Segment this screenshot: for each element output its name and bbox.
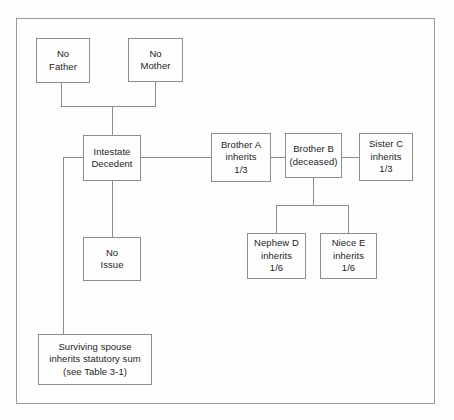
node-intestate-decedent[interactable]: Intestate Decedent [83, 135, 141, 181]
node-spouse-line-3: (see Table 3-1) [63, 366, 127, 379]
connector-decedent-to-issue [112, 180, 113, 238]
node-no-mother-line-2: Mother [141, 60, 171, 73]
node-sister-c[interactable]: Sister C inherits 1/3 [359, 133, 413, 181]
node-no-mother-line-1: No [149, 48, 161, 61]
node-no-issue-line-2: Issue [101, 259, 124, 272]
node-no-mother[interactable]: No Mother [128, 38, 183, 82]
node-brother-b-line-2: (deceased) [289, 156, 337, 169]
connector-brother-a-to-brother-b [270, 157, 285, 158]
node-no-father[interactable]: No Father [36, 38, 90, 83]
node-spouse-line-2: inherits statutory sum [49, 353, 140, 366]
node-brother-b[interactable]: Brother B (deceased) [285, 133, 342, 178]
node-surviving-spouse[interactable]: Surviving spouse inherits statutory sum … [38, 334, 152, 385]
node-brother-a[interactable]: Brother A inherits 1/3 [211, 133, 271, 182]
connector-parents-to-decedent [112, 106, 113, 136]
node-spouse-line-1: Surviving spouse [58, 341, 131, 354]
connector-decedent-spouse-stub [63, 157, 84, 158]
diagram-page: No Father No Mother Intestate Decedent B… [0, 0, 454, 420]
node-decedent-line-1: Intestate [94, 146, 131, 159]
node-brother-a-line-3: 1/3 [234, 164, 247, 177]
connector-spouse-drop [63, 157, 64, 335]
node-nephew-d[interactable]: Nephew D inherits 1/6 [247, 233, 306, 279]
node-no-issue[interactable]: No Issue [83, 237, 141, 281]
node-no-father-line-2: Father [49, 61, 77, 74]
connector-brother-b-to-sister-c [341, 157, 359, 158]
node-nephew-d-line-3: 1/6 [270, 262, 283, 275]
connector-decedent-to-brother-a [140, 157, 211, 158]
node-niece-e-line-2: inherits [333, 250, 364, 263]
node-sister-c-line-3: 1/3 [379, 163, 392, 176]
node-niece-e-line-3: 1/6 [342, 262, 355, 275]
node-nephew-d-line-1: Nephew D [254, 237, 299, 250]
connector-parents-bar [61, 106, 156, 107]
node-no-father-line-1: No [57, 48, 69, 61]
connector-brother-b-stem [313, 177, 314, 205]
node-sister-c-line-1: Sister C [369, 138, 403, 151]
node-decedent-line-2: Decedent [91, 158, 132, 171]
node-no-issue-line-1: No [106, 247, 118, 260]
connector-nephew-stem [276, 205, 277, 233]
node-niece-e-line-1: Niece E [332, 237, 366, 250]
node-brother-a-line-1: Brother A [221, 139, 261, 152]
node-niece-e[interactable]: Niece E inherits 1/6 [320, 233, 377, 279]
node-brother-b-line-1: Brother B [293, 143, 334, 156]
connector-niece-stem [348, 205, 349, 233]
connector-children-bar [276, 205, 349, 206]
connector-mother-stem [155, 81, 156, 107]
node-brother-a-line-2: inherits [225, 151, 256, 164]
connector-father-stem [61, 82, 62, 107]
node-sister-c-line-2: inherits [370, 151, 401, 164]
node-nephew-d-line-2: inherits [261, 250, 292, 263]
